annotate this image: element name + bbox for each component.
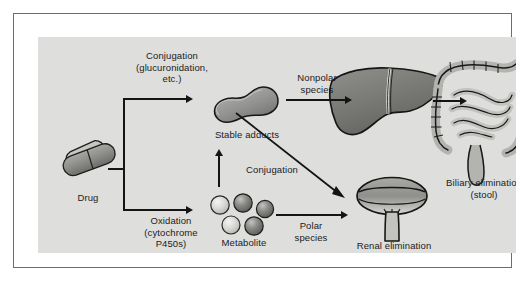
label-polar-species: Polar species xyxy=(281,220,341,243)
intestine-icon xyxy=(431,61,516,186)
arrow-polar-line xyxy=(276,214,342,216)
label-conjugation-top: Conjugation (glucuronidation, etc.) xyxy=(112,50,232,85)
arrow-liver-to-intestine-line xyxy=(433,100,461,102)
diagram-canvas: Conjugation (glucuronidation, etc.) Oxid… xyxy=(38,37,516,253)
caption-renal-elimination: Renal elimination (urine) xyxy=(335,240,453,253)
arrow-conjugation-mid-line xyxy=(218,155,220,187)
metabolite-sphere-light-1 xyxy=(211,196,229,214)
figure-frame: Conjugation (glucuronidation, etc.) Oxid… xyxy=(13,13,512,268)
metabolite-sphere-dark-3 xyxy=(245,217,263,235)
drug-stem-line xyxy=(108,168,124,170)
arrow-polar-head xyxy=(341,211,348,219)
drug-branch-vertical xyxy=(123,99,125,210)
label-stable-adducts: Stable adducts xyxy=(197,129,297,141)
arrow-oxidation-head xyxy=(186,206,193,214)
bladder-icon xyxy=(357,178,427,242)
figure-page: Conjugation (glucuronidation, etc.) Oxid… xyxy=(0,0,527,284)
diagram-artwork xyxy=(38,37,516,253)
arrow-conjugation-line xyxy=(123,98,187,100)
arrow-conjugation-mid-head xyxy=(215,149,223,156)
caption-biliary-elimination: Biliary elimination (stool) xyxy=(419,177,516,200)
arrow-adducts-to-bladder xyxy=(236,113,345,198)
adduct-blob-icon xyxy=(215,87,278,122)
label-nonpolar-species: Nonpolar species xyxy=(273,72,361,95)
metabolite-sphere-dark-2 xyxy=(256,200,273,217)
arrow-liver-to-intestine-head xyxy=(460,97,467,105)
label-conjugation-middle: Conjugation xyxy=(230,164,314,176)
arrow-nonpolar-line xyxy=(286,99,346,101)
arrow-oxidation-line xyxy=(123,209,187,211)
capsule-pill-icon xyxy=(58,136,118,178)
arrow-nonpolar-head xyxy=(345,96,352,104)
metabolite-sphere-dark-1 xyxy=(234,194,252,212)
arrow-conjugation-head xyxy=(186,95,193,103)
label-drug: Drug xyxy=(54,192,122,204)
label-metabolite: Metabolite xyxy=(203,237,285,249)
